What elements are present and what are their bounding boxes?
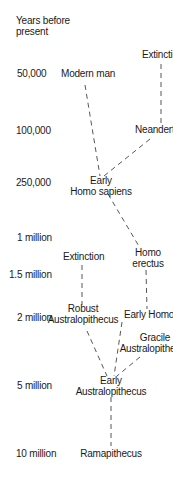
node-early-austr-line1: Early	[76, 375, 147, 386]
node-gracile-line1: Gracile	[120, 332, 173, 343]
node-robust-line2: Australopithecus	[48, 314, 119, 325]
edge-sapiens-modern-man	[85, 85, 100, 176]
edge-sapiens-neanderthal	[104, 139, 150, 176]
node-homo-erectus-line2: erectus	[132, 258, 163, 269]
node-robust-line1: Robust	[48, 303, 119, 314]
edge-erectus-sapiens	[108, 194, 140, 248]
axis-title: Years before present	[16, 15, 70, 37]
edge-early-austr-robust	[87, 331, 107, 376]
node-early-homo-sapiens: Early Homo sapiens	[70, 175, 132, 197]
year-label-1-million: 1 million	[17, 232, 52, 243]
edge-early-austr-gracile	[117, 357, 140, 376]
edge-early-homo-erectus	[146, 270, 147, 309]
axis-title-line2: present	[16, 26, 70, 37]
node-robust-australopithecus: Robust Australopithecus	[48, 303, 119, 325]
node-gracile-line2: Australopithecus	[120, 343, 173, 354]
node-ramapithecus: Ramapithecus	[80, 448, 142, 459]
year-label-1-5-million: 1.5 million	[9, 269, 52, 280]
node-extinction-robust: Extinction	[63, 251, 104, 262]
node-gracile-australopithecus: Gracile Australopithecus	[120, 332, 173, 354]
node-early-homo-sapiens-line1: Early	[70, 175, 132, 186]
year-label-10-million: 10 million	[16, 448, 56, 459]
year-label-250000: 250,000	[16, 177, 51, 188]
node-extinction-top: Extinction	[142, 49, 173, 60]
year-label-50000: 50,000	[17, 68, 46, 79]
node-homo-erectus-line1: Homo	[132, 247, 163, 258]
year-label-100000: 100,000	[16, 125, 51, 136]
node-neanderthal: Neanderthal	[135, 124, 173, 135]
year-label-5-million: 5 million	[17, 380, 52, 391]
node-homo-erectus: Homo erectus	[132, 247, 163, 269]
node-early-homo: Early Homo ?	[124, 309, 173, 320]
node-early-austr-line2: Australopithecus	[76, 386, 147, 397]
node-early-homo-sapiens-line2: Homo sapiens	[70, 186, 132, 197]
axis-title-line1: Years before	[16, 15, 70, 26]
node-modern-man: Modern man	[61, 68, 115, 79]
node-early-australopithecus: Early Australopithecus	[76, 375, 147, 397]
